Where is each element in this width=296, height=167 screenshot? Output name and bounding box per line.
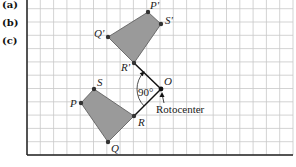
vertex-label: S' xyxy=(165,14,174,26)
vertex-label: R' xyxy=(120,61,131,73)
vertex-label: R xyxy=(137,116,145,128)
vertex-label: S xyxy=(97,76,103,88)
rotocenter-point xyxy=(159,87,164,92)
center-label: O xyxy=(164,75,172,87)
vertex-point xyxy=(92,87,96,91)
arrowhead-icon xyxy=(140,71,145,76)
vertex-point xyxy=(106,35,110,39)
vertex-point xyxy=(106,140,110,144)
vertex-label: P xyxy=(69,97,77,109)
image-quadrilateral xyxy=(108,12,161,63)
vertex-label: Q' xyxy=(94,27,105,39)
angle-label: 90° xyxy=(138,86,153,98)
vertex-point xyxy=(132,61,136,65)
rotation-diagram: PQRSP'Q'R'S' 90° O Rotocenter xyxy=(0,0,296,167)
vertex-point xyxy=(159,22,163,26)
rotocenter-caption: Rotocenter xyxy=(156,103,205,115)
vertex-point xyxy=(132,114,136,118)
vertex-label: P' xyxy=(149,0,160,11)
vertex-point xyxy=(79,101,83,105)
vertex-label: Q xyxy=(111,142,119,154)
